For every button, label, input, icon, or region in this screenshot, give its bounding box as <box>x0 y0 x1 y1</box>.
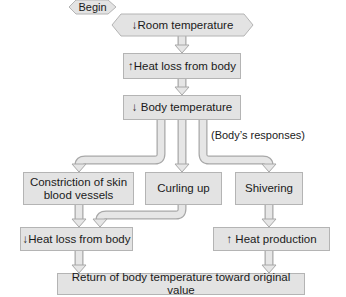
room-temperature-label: ↓Room temperature <box>112 14 253 36</box>
arrow-shivering-to-heatproduction <box>262 204 276 227</box>
heat-loss-increase-box: ↑Heat loss from body <box>123 53 241 79</box>
arrow-bodytemp-to-shivering <box>203 119 276 172</box>
arrow-heatproduction-to-return <box>262 250 276 273</box>
return-to-original-box: Return of body temperature toward origin… <box>57 273 305 295</box>
body-temperature-box: ↓ Body temperature <box>123 95 241 120</box>
arrow-room-to-heatloss <box>175 34 189 53</box>
arrow-curling-to-heatloss <box>93 204 182 227</box>
body-responses-annotation: (Body’s responses) <box>211 129 305 141</box>
heat-production-box: ↑ Heat production <box>213 227 330 251</box>
arrow-heatloss-to-bodytemp <box>175 78 189 95</box>
shivering-box: Shivering <box>235 172 303 205</box>
arrow-heatloss-to-return <box>72 250 86 273</box>
arrow-constriction-to-heatloss <box>72 204 86 227</box>
constriction-box: Constriction of skin blood vessels <box>23 172 134 205</box>
heat-loss-decrease-box: ↓Heat loss from body <box>20 227 133 251</box>
arrow-bodytemp-to-curling <box>175 119 189 172</box>
curling-up-box: Curling up <box>145 172 222 205</box>
begin-label: Begin <box>69 0 116 14</box>
arrow-bodytemp-to-constriction <box>72 119 161 172</box>
